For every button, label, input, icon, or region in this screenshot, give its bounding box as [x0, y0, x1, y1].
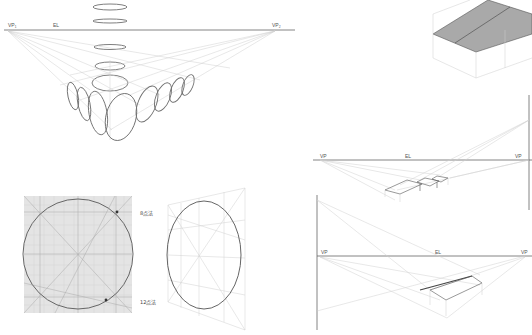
vp-right-label: VP [515, 153, 522, 159]
vp-right-label: VP [521, 249, 528, 255]
eye-level-label: EL [435, 249, 441, 255]
vp1-label: VP₁ [8, 22, 17, 28]
perspective-ellipse [167, 201, 241, 309]
vp-left-label: VP [321, 249, 328, 255]
vp-left-label: VP [320, 153, 327, 159]
panel-roof-box [433, 0, 532, 78]
vanishing-guides [8, 31, 275, 140]
panel-steps: VP EL VP [313, 95, 532, 210]
vp2-label: VP₂ [272, 22, 281, 28]
tangent-point [105, 299, 108, 302]
floating-ellipse [93, 19, 127, 23]
panel-ellipse-perspective [167, 188, 245, 330]
floating-ellipse [93, 4, 127, 10]
panel-ellipses-perspective: VP₁ EL VP₂ [4, 4, 295, 144]
slope-plane [430, 276, 482, 300]
eye-level-label: EL [405, 153, 411, 159]
roof-plane [433, 0, 532, 52]
panel-circle-in-square: 8点法 12点法 [23, 196, 156, 313]
eye-level-label: EL [53, 22, 59, 28]
floating-ellipse [94, 45, 126, 50]
method-8-label: 8点法 [140, 210, 153, 217]
tangent-point [116, 211, 119, 214]
perspective-figure: VP₁ EL VP₂ [0, 0, 532, 335]
front-ellipse [100, 90, 141, 144]
slope-ridge [420, 276, 472, 290]
method-12-label: 12点法 [140, 299, 156, 306]
side-ellipse [75, 86, 94, 122]
panel-slope: VP EL VP [317, 195, 532, 330]
vanishing-guides [317, 200, 525, 318]
step-blocks [385, 176, 448, 194]
side-ellipse [179, 73, 197, 97]
